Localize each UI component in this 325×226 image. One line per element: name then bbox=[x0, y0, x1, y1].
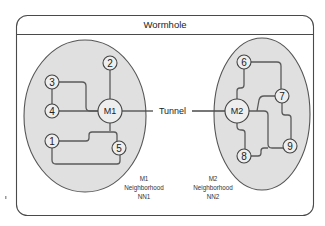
node-5-label: 5 bbox=[116, 143, 122, 154]
neighborhood-nn1 bbox=[24, 40, 146, 192]
node-4: 4 bbox=[45, 104, 59, 118]
tunnel-label: Tunnel bbox=[159, 106, 186, 116]
node-8: 8 bbox=[237, 149, 251, 163]
node-4-label: 4 bbox=[49, 106, 55, 117]
caption-nn1-word: Neighborhood bbox=[124, 184, 164, 192]
caption-nn1-id: NN1 bbox=[138, 193, 151, 200]
node-3: 3 bbox=[45, 75, 59, 89]
caption-nn1-hub: M1 bbox=[140, 175, 149, 182]
node-9-label: 9 bbox=[287, 141, 293, 152]
caption-nn2-id: NN2 bbox=[207, 193, 220, 200]
node-3-label: 3 bbox=[49, 77, 55, 88]
node-1: 1 bbox=[45, 134, 59, 148]
node-6: 6 bbox=[237, 55, 251, 69]
node-m2: M2 bbox=[225, 99, 249, 123]
node-m1: M1 bbox=[98, 99, 122, 123]
caption-nn2-hub: M2 bbox=[209, 175, 218, 182]
node-m2-label: M2 bbox=[231, 106, 244, 116]
node-8-label: 8 bbox=[241, 151, 247, 162]
node-2: 2 bbox=[103, 56, 117, 70]
caption-nn2-word: Neighborhood bbox=[193, 184, 233, 192]
node-1-label: 1 bbox=[49, 136, 55, 147]
node-7: 7 bbox=[275, 89, 289, 103]
node-9: 9 bbox=[283, 139, 297, 153]
node-7-label: 7 bbox=[279, 91, 285, 102]
scan-speck bbox=[5, 196, 7, 199]
wormhole-diagram: Wormhole Tunnel M1 2 3 4 1 5 bbox=[0, 0, 325, 226]
node-6-label: 6 bbox=[241, 57, 247, 68]
node-2-label: 2 bbox=[107, 58, 113, 69]
wormhole-title: Wormhole bbox=[143, 19, 186, 30]
node-m1-label: M1 bbox=[104, 106, 117, 116]
node-5: 5 bbox=[112, 141, 126, 155]
